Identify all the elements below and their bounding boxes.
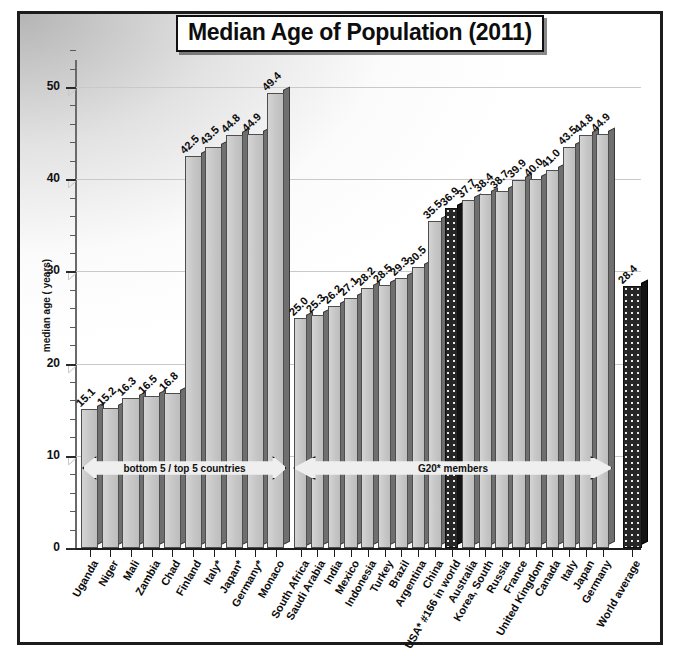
- x-tick: [351, 550, 352, 557]
- y-tick-label: 40: [30, 171, 60, 185]
- x-tick: [235, 550, 236, 557]
- bar-face: [529, 179, 542, 548]
- y-tick-minor: [70, 50, 76, 51]
- bar-value-label: 44.8: [218, 111, 242, 135]
- chart-title: Median Age of Population (2011): [188, 19, 532, 46]
- x-tick: [469, 550, 470, 557]
- bar-value-label: 16.3: [115, 374, 139, 398]
- bar: [579, 135, 592, 548]
- bar-side: [641, 280, 648, 545]
- plot-area: 15.115.216.316.516.842.543.544.844.949.4…: [76, 60, 641, 548]
- x-tick: [435, 550, 436, 557]
- bar: [226, 135, 243, 548]
- y-tick-major: [66, 456, 76, 458]
- annotation-label: G20* members: [418, 463, 488, 474]
- bar-face: [328, 306, 341, 548]
- bar-face: [428, 221, 441, 548]
- y-tick-major: [66, 364, 76, 366]
- bar-face: [479, 194, 492, 548]
- bar: [378, 285, 391, 548]
- x-tick: [418, 550, 419, 557]
- x-tick: [152, 550, 153, 557]
- bar: [361, 288, 374, 548]
- bar-side: [608, 128, 615, 545]
- x-tick: [276, 550, 277, 557]
- bar-face: [378, 285, 391, 548]
- bar-face: [512, 180, 525, 548]
- bar-face: [361, 288, 374, 548]
- bar: [546, 170, 559, 548]
- bar-side: [283, 86, 290, 545]
- bar-face: [462, 200, 475, 548]
- x-tick: [90, 550, 91, 557]
- x-tick: [603, 550, 604, 557]
- bar-value-label: 15.1: [74, 385, 98, 409]
- bar-face: [102, 408, 119, 548]
- x-tick: [586, 550, 587, 557]
- bar: [344, 298, 357, 548]
- bar: [596, 134, 609, 548]
- x-tick: [385, 550, 386, 557]
- bar: [294, 318, 307, 549]
- bar-face: [247, 134, 264, 548]
- y-tick-label: 0: [30, 540, 60, 554]
- x-tick: [255, 550, 256, 557]
- bar: [311, 315, 324, 548]
- x-tick: [502, 550, 503, 557]
- x-tick: [193, 550, 194, 557]
- bar-face: [267, 93, 284, 548]
- x-tick: [172, 550, 173, 557]
- chart-screenshot: Median Age of Population (2011) median a…: [0, 0, 682, 662]
- bar-face: [596, 134, 609, 548]
- x-tick: [214, 550, 215, 557]
- bar-value-label: 28.4: [616, 263, 640, 287]
- bar-face: [185, 156, 202, 548]
- bar: [428, 221, 441, 548]
- y-tick-major: [66, 87, 76, 89]
- bar-face: [623, 286, 642, 548]
- bar-face: [495, 191, 508, 548]
- x-tick: [131, 550, 132, 557]
- x-tick: [334, 550, 335, 557]
- bar: [328, 306, 341, 548]
- x-tick: [301, 550, 302, 557]
- bar: [563, 147, 576, 548]
- bar-face: [412, 267, 425, 548]
- bar-value-label: 49.4: [260, 69, 284, 93]
- bar: [102, 408, 119, 548]
- bar: [462, 200, 475, 548]
- x-tick: [485, 550, 486, 557]
- bar-face: [546, 170, 559, 548]
- y-tick-label: 20: [30, 356, 60, 370]
- bar-face: [344, 298, 357, 548]
- bar-face: [226, 135, 243, 548]
- x-tick: [552, 550, 553, 557]
- bar: [205, 147, 222, 548]
- bar: [185, 156, 202, 548]
- y-tick-major: [66, 548, 76, 550]
- bar-face: [563, 147, 576, 548]
- y-tick-major: [66, 179, 76, 181]
- bar: [623, 286, 642, 548]
- bar-face: [395, 278, 408, 548]
- x-axis-line: [75, 548, 641, 550]
- x-tick: [632, 550, 633, 557]
- x-tick: [536, 550, 537, 557]
- x-tick: [317, 550, 318, 557]
- bar: [479, 194, 492, 548]
- x-tick: [569, 550, 570, 557]
- bar-value-label: 42.5: [177, 133, 201, 157]
- bar: [395, 278, 408, 548]
- bar-value-label: 43.5: [198, 123, 222, 147]
- bar-face: [579, 135, 592, 548]
- bar: [445, 208, 458, 548]
- y-tick-label: 10: [30, 448, 60, 462]
- bar-face: [311, 315, 324, 548]
- bar: [512, 180, 525, 548]
- y-tick-major: [66, 271, 76, 273]
- bar-face: [294, 318, 307, 549]
- bar-face: [205, 147, 222, 548]
- bar: [267, 93, 284, 548]
- x-tick: [368, 550, 369, 557]
- chart-title-box: Median Age of Population (2011): [176, 15, 544, 52]
